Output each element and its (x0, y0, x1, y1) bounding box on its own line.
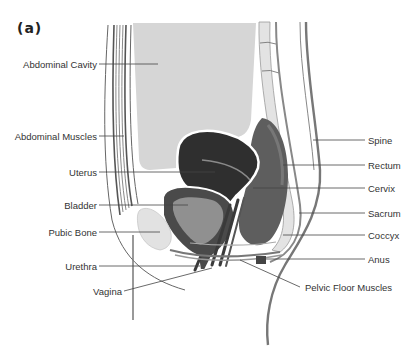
pelvic-anatomy-diagram: (a) (0, 0, 418, 348)
anus-shape (256, 256, 266, 264)
label-cervix: Cervix (368, 183, 395, 194)
label-abdominal-muscles: Abdominal Muscles (15, 131, 97, 142)
label-vagina: Vagina (93, 286, 122, 297)
label-pelvic-floor-muscles: Pelvic Floor Muscles (305, 282, 392, 293)
label-bladder: Bladder (64, 200, 97, 211)
anatomy-illustration (0, 0, 418, 348)
label-pubic-bone: Pubic Bone (48, 227, 97, 238)
label-coccyx: Coccyx (368, 230, 399, 241)
label-rectum: Rectum (368, 160, 401, 171)
label-abdominal-cavity: Abdominal Cavity (23, 59, 97, 70)
label-uterus: Uterus (69, 167, 97, 178)
label-anus: Anus (368, 254, 390, 265)
label-spine: Spine (368, 135, 392, 146)
label-sacrum: Sacrum (368, 208, 401, 219)
label-urethra: Urethra (65, 261, 97, 272)
